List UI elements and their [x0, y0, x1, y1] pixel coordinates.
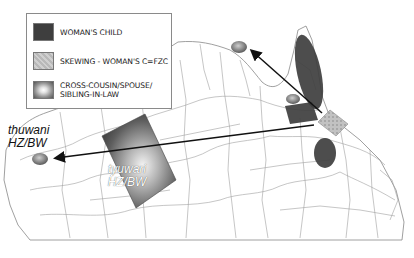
woman-child-region-east: [314, 138, 336, 168]
legend-label-line2: SIBLING-IN-LAW: [60, 90, 119, 99]
label-tyuwari: tyuwari HZ/BW: [102, 163, 152, 189]
legend-label: CROSS-COUSIN/SPOUSE/ SIBLING-IN-LAW: [60, 81, 152, 99]
gradient-swatch-icon: [33, 81, 54, 99]
legend-label: WOMAN'S CHILD: [60, 28, 122, 37]
legend-item-cross-cousin: CROSS-COUSIN/SPOUSE/ SIBLING-IN-LAW: [33, 81, 152, 99]
label-thuwani-gloss: HZ/BW: [8, 136, 47, 150]
map-legend: WOMAN'S CHILD SKEWING - WOMAN'S C=FZC CR…: [26, 13, 172, 109]
stipple-swatch-icon: [33, 52, 54, 70]
label-thuwani-term: thuwani: [8, 123, 49, 137]
cross-cousin-marker-west: [32, 153, 48, 165]
legend-item-skewing: SKEWING - WOMAN'S C=FZC: [33, 52, 168, 70]
legend-label-line1: CROSS-COUSIN/SPOUSE/: [60, 81, 152, 90]
label-tyuwari-term: tyuwari: [108, 162, 146, 176]
legend-item-woman-child: WOMAN'S CHILD: [33, 23, 122, 41]
dark-swatch-icon: [33, 23, 54, 41]
cross-cousin-marker-gulf: [286, 94, 300, 104]
label-thuwani: thuwani HZ/BW: [8, 124, 49, 150]
cross-cousin-marker-north: [231, 41, 247, 53]
legend-label: SKEWING - WOMAN'S C=FZC: [60, 57, 168, 66]
label-tyuwari-gloss: HZ/BW: [108, 175, 147, 189]
